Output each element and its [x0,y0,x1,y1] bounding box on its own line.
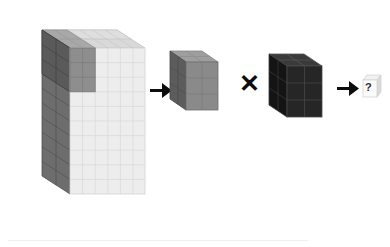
big-slab-front-face [70,48,145,194]
diagram-canvas [0,0,390,247]
multiply-icon: ✕ [239,71,260,96]
dark-block [269,54,322,117]
arrow-right-icon-2 [337,81,359,96]
bottom-divider [8,240,308,241]
gray-block [170,51,218,110]
isometric-blocks-svg [0,0,390,247]
big-slab-corner-subblock [70,48,95,92]
arrow-right-icon-1 [150,83,172,98]
question-mark-label: ? [365,82,372,93]
big-slab-top-face [0,30,145,48]
big-slab [0,30,145,194]
big-slab-left-face [42,30,70,194]
